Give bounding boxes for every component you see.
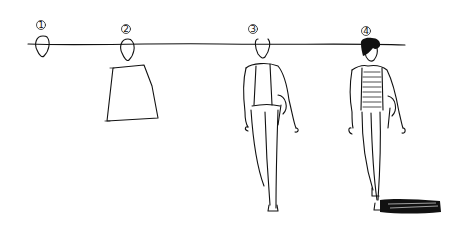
stage-label-3: 3	[249, 24, 258, 34]
figure-3	[244, 39, 299, 211]
sketch-canvas: 1 2 3 4	[0, 0, 455, 233]
svg-text:2: 2	[123, 24, 129, 34]
stage-label-1: 1	[37, 20, 46, 30]
svg-text:1: 1	[38, 20, 44, 30]
stage-label-4: 4	[362, 26, 371, 36]
figure-1-head	[36, 36, 49, 57]
stage-label-2: 2	[122, 24, 131, 34]
figure-4	[349, 38, 441, 214]
svg-text:4: 4	[363, 26, 369, 36]
horizon-line	[28, 44, 405, 45]
figure-2	[105, 39, 158, 121]
svg-text:3: 3	[250, 24, 256, 34]
